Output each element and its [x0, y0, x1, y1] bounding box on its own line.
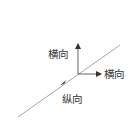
- longitudinal-axis-line: [18, 45, 120, 117]
- label-transverse-horizontal: 横向: [104, 68, 124, 80]
- longitudinal-arrow-icon: [60, 80, 66, 86]
- direction-diagram: 横向 横向 纵向: [0, 0, 134, 128]
- label-transverse-vertical: 横向: [48, 48, 68, 60]
- label-longitudinal: 纵向: [62, 93, 82, 105]
